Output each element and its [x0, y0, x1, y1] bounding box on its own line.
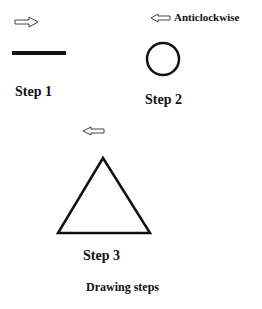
- step1-line: [12, 50, 68, 56]
- step2-circle: [144, 40, 184, 80]
- left-arrow-icon: [82, 126, 106, 136]
- diagram-caption: Drawing steps: [86, 280, 159, 295]
- left-arrow-icon: [150, 13, 172, 23]
- step2-label: Step 2: [145, 92, 182, 108]
- anticlockwise-note: Anticlockwise: [174, 11, 239, 23]
- step1-label: Step 1: [15, 84, 52, 100]
- step3-label: Step 3: [83, 248, 120, 264]
- step3-triangle: [56, 156, 152, 236]
- right-arrow-icon: [14, 16, 40, 28]
